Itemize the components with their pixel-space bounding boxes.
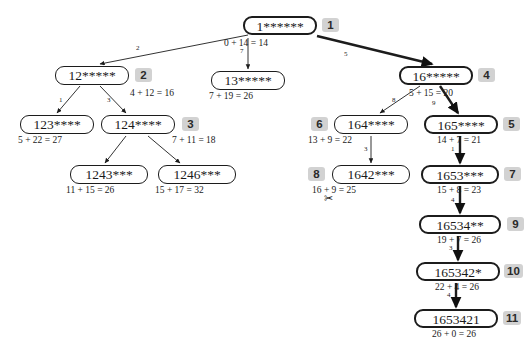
expansion-order-badge: 5 (503, 117, 520, 131)
expansion-order-badge: 11 (503, 311, 521, 325)
edge-label: 4 (451, 196, 455, 204)
expansion-order-badge: 7 (504, 167, 521, 181)
expansion-order-badge: 1 (322, 18, 339, 32)
node-cost-label: 26 + 0 = 26 (432, 329, 476, 339)
edge-label: 5 (344, 50, 348, 58)
edge-label: 4 (447, 291, 451, 299)
edge-label: 3 (107, 96, 111, 104)
node-cost-label: 15 + 17 = 32 (155, 185, 204, 195)
node-cost-label: 5 + 15 = 20 (409, 88, 453, 98)
edge-label: 3 (449, 244, 453, 252)
edge-label: 1 (59, 96, 63, 104)
expansion-order-badge: 6 (311, 117, 328, 131)
expansion-order-badge: 9 (507, 217, 524, 231)
node-cost-label: 0 + 14 = 14 (224, 38, 268, 48)
node-cost-label: 4 + 12 = 16 (130, 88, 174, 98)
edge-label: 3 (364, 145, 368, 153)
node-cost-label: 13 + 9 = 22 (308, 135, 352, 145)
edge-label: 2 (136, 44, 140, 52)
expansion-order-badge: 8 (308, 167, 325, 181)
tree-edge (100, 86, 126, 113)
edge-label: 9 (432, 99, 436, 107)
tree-node[interactable]: 165**** (424, 115, 498, 134)
tree-node[interactable]: 1246*** (158, 165, 236, 184)
tree-node[interactable]: 124**** (101, 115, 175, 134)
edge-label: 8 (392, 96, 396, 104)
tree-edge (105, 136, 126, 163)
node-cost-label: 7 + 19 = 26 (209, 91, 253, 101)
expansion-order-badge: 10 (504, 264, 523, 278)
node-cost-label: 19 + 7 = 26 (437, 235, 481, 245)
expansion-order-badge: 4 (478, 68, 495, 82)
tree-node[interactable]: 165342* (416, 262, 500, 281)
edge-label: 1 (451, 145, 455, 153)
expansion-order-badge: 2 (135, 68, 152, 82)
node-cost-label: 7 + 11 = 18 (172, 135, 216, 145)
node-cost-label: 14 + 7 = 21 (437, 135, 481, 145)
search-tree-diagram: 2751389314341******10 + 14 = 1412*****24… (0, 0, 527, 350)
node-cost-label: 5 + 22 = 27 (18, 135, 62, 145)
tree-node[interactable]: 12***** (55, 66, 129, 85)
tree-node[interactable]: 16***** (399, 66, 473, 85)
tree-node[interactable]: 164**** (334, 115, 408, 134)
node-cost-label: 16 + 9 = 25 (312, 185, 356, 195)
scissors-icon: ✂ (324, 192, 333, 205)
node-cost-label: 22 + 4 = 26 (435, 282, 479, 292)
tree-edge (317, 36, 432, 64)
edge-label: 7 (240, 47, 244, 55)
tree-node[interactable]: 1****** (243, 16, 317, 35)
tree-node[interactable]: 1653*** (421, 165, 499, 184)
tree-node[interactable]: 1642*** (332, 165, 410, 184)
tree-node[interactable]: 13***** (211, 71, 285, 90)
tree-node[interactable]: 16534** (419, 215, 501, 234)
tree-node[interactable]: 1653421 (414, 309, 498, 328)
node-cost-label: 15 + 8 = 23 (437, 185, 481, 195)
tree-node[interactable]: 1243*** (70, 165, 148, 184)
node-cost-label: 11 + 15 = 26 (66, 185, 114, 195)
expansion-order-badge: 3 (182, 117, 199, 131)
tree-node[interactable]: 123**** (20, 115, 94, 134)
